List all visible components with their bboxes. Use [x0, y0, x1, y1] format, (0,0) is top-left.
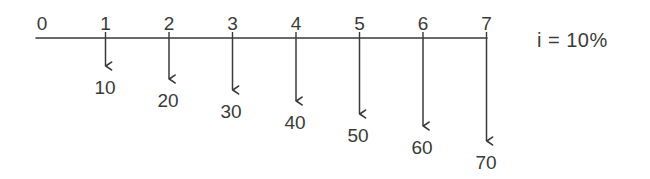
- cash-flow-value-3: 30: [220, 102, 241, 121]
- period-label-2: 2: [164, 14, 175, 33]
- period-label-3: 3: [227, 14, 238, 33]
- cash-flow-value-7: 70: [475, 153, 496, 172]
- period-label-7: 7: [481, 14, 492, 33]
- interest-rate-label: i = 10%: [537, 30, 608, 50]
- cash-flow-value-1: 10: [94, 78, 115, 97]
- cash-flow-diagram: 0 1 2 3 4 5 6 7 10 20 30 40 50 60 70 i =…: [0, 0, 650, 179]
- cash-flow-value-6: 60: [411, 138, 432, 157]
- period-label-0: 0: [37, 14, 48, 33]
- period-label-1: 1: [100, 14, 111, 33]
- cash-flow-value-4: 40: [284, 113, 305, 132]
- cash-flow-value-5: 50: [347, 126, 368, 145]
- period-label-4: 4: [291, 14, 302, 33]
- cash-flow-value-2: 20: [157, 91, 178, 110]
- period-label-5: 5: [354, 14, 365, 33]
- period-label-6: 6: [418, 14, 429, 33]
